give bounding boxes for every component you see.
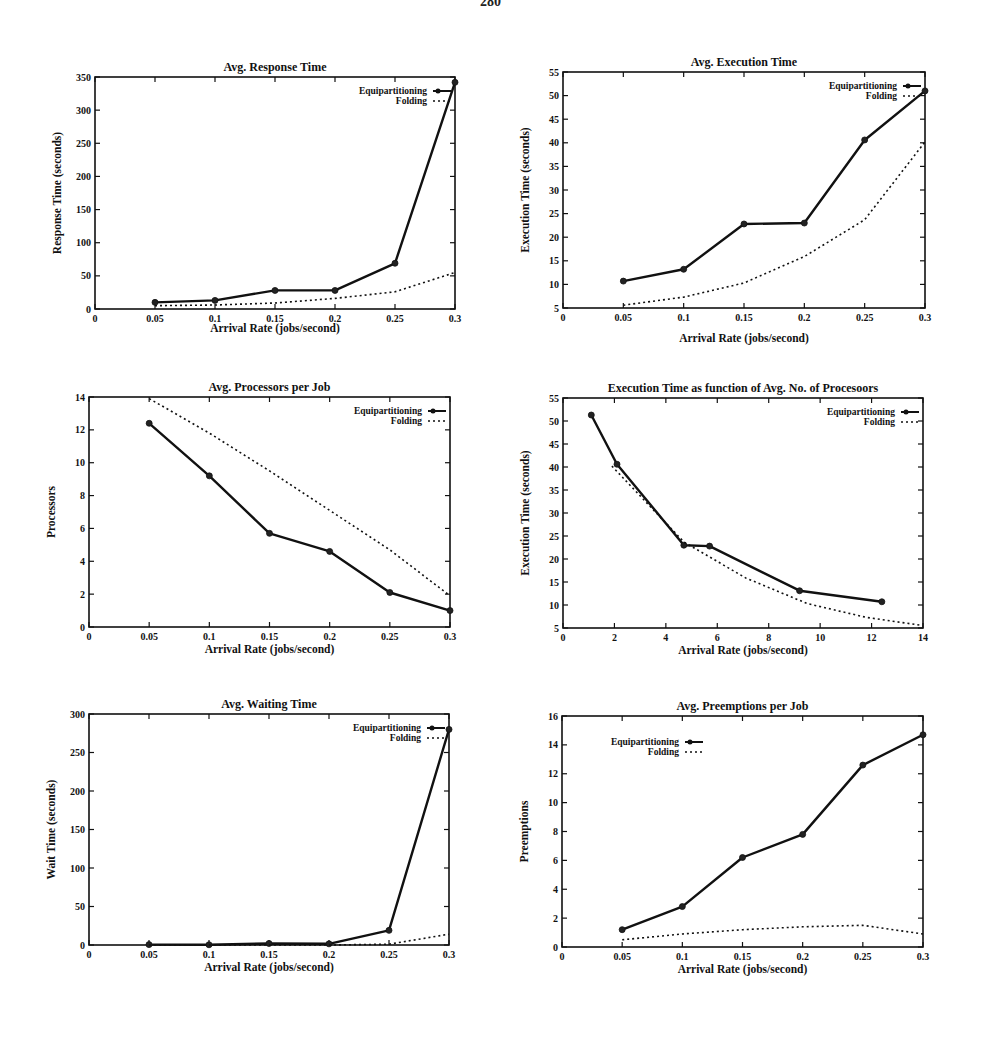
y-tick-label: 10 [549, 600, 559, 611]
data-point-marker [679, 904, 685, 910]
y-tick-label: 12 [548, 768, 558, 779]
data-point-marker [614, 461, 620, 467]
x-tick-label: 0.1 [203, 949, 216, 960]
y-tick-label: 10 [549, 279, 559, 290]
chart-title: Avg. Execution Time [691, 55, 798, 69]
x-tick-label: 12 [867, 632, 877, 643]
legend-label-folding: Folding [648, 747, 679, 757]
x-tick-label: 0.25 [381, 631, 399, 642]
y-tick-label: 350 [76, 72, 91, 83]
x-tick-label: 0.2 [798, 312, 811, 323]
y-axis-label: Preemptions [518, 800, 531, 862]
plot-frame [89, 397, 450, 627]
figure-charts: Avg. Response Time00.050.10.150.20.250.3… [0, 0, 981, 1045]
data-point-marker [206, 473, 212, 479]
y-tick-label: 4 [80, 556, 85, 567]
y-axis-label: Execution Time (seconds) [519, 127, 532, 253]
chart-title: Avg. Processors per Job [209, 380, 331, 394]
x-tick-label: 0 [87, 949, 92, 960]
y-tick-label: 15 [549, 577, 559, 588]
series-folding-line [622, 925, 923, 940]
y-tick-label: 200 [70, 786, 85, 797]
data-point-marker [862, 137, 868, 143]
y-tick-label: 30 [549, 185, 559, 196]
legend: EquipartitioningFolding [353, 723, 445, 743]
legend-label-equipartitioning: Equipartitioning [354, 406, 422, 416]
x-tick-label: 0 [93, 313, 98, 324]
series-equipartitioning-line [623, 91, 925, 281]
data-point-marker [326, 941, 332, 947]
y-tick-label: 0 [86, 304, 91, 315]
y-tick-label: 35 [549, 161, 559, 172]
legend-label-folding: Folding [864, 417, 895, 427]
chart-title: Avg. Response Time [223, 60, 327, 74]
legend-label-equipartitioning: Equipartitioning [611, 737, 679, 747]
x-tick-label: 0.25 [386, 313, 404, 324]
y-tick-label: 50 [75, 901, 85, 912]
y-tick-label: 14 [548, 739, 558, 750]
x-tick-label: 0 [561, 632, 566, 643]
legend-label-folding: Folding [390, 733, 421, 743]
y-tick-label: 5 [554, 623, 559, 634]
chart-execution-time: Avg. Execution Time00.050.10.150.20.250.… [519, 55, 931, 345]
y-tick-label: 8 [80, 490, 85, 501]
y-tick-label: 100 [70, 863, 85, 874]
y-axis-label: Wait Time (seconds) [45, 779, 58, 879]
x-tick-label: 0.3 [919, 312, 932, 323]
x-tick-label: 0.2 [323, 949, 336, 960]
y-tick-label: 14 [75, 392, 85, 403]
data-point-marker [392, 260, 398, 266]
data-point-marker [707, 543, 713, 549]
chart-exec-time-vs-processors: Execution Time as function of Avg. No. o… [519, 381, 928, 657]
x-axis-label: Arrival Rate (jobs/second) [204, 961, 334, 974]
data-point-marker [387, 590, 393, 596]
plot-frame [563, 398, 923, 628]
x-tick-label: 0.05 [613, 951, 631, 962]
y-tick-label: 55 [549, 393, 559, 404]
y-tick-label: 30 [549, 508, 559, 519]
legend-label-equipartitioning: Equipartitioning [359, 86, 427, 96]
series-equipartitioning-line [149, 423, 450, 610]
y-tick-label: 40 [549, 462, 559, 473]
y-tick-label: 4 [553, 884, 558, 895]
data-point-marker [879, 599, 885, 605]
series-equipartitioning-line [155, 82, 455, 302]
data-point-marker [447, 608, 453, 614]
data-point-marker [800, 831, 806, 837]
data-point-marker [146, 420, 152, 426]
y-tick-label: 2 [553, 913, 558, 924]
x-axis-label: Arrival Rate (jobs/second) [678, 963, 808, 976]
y-tick-label: 15 [549, 255, 559, 266]
data-point-marker [332, 287, 338, 293]
series-equipartitioning-line [149, 729, 449, 944]
legend: EquipartitioningFolding [827, 407, 919, 427]
y-tick-label: 250 [76, 138, 91, 149]
data-point-marker [920, 732, 926, 738]
x-tick-label: 0.15 [260, 949, 278, 960]
x-tick-label: 0.1 [203, 631, 216, 642]
chart-title: Avg. Preemptions per Job [677, 699, 809, 713]
data-point-marker [272, 287, 278, 293]
y-tick-label: 50 [549, 90, 559, 101]
y-tick-label: 50 [81, 270, 91, 281]
series-folding-line [149, 399, 450, 596]
y-tick-label: 200 [76, 171, 91, 182]
y-tick-label: 300 [70, 709, 85, 720]
data-point-marker [620, 278, 626, 284]
x-tick-label: 0.15 [735, 312, 753, 323]
x-tick-label: 14 [918, 632, 928, 643]
y-tick-label: 100 [76, 237, 91, 248]
y-tick-label: 40 [549, 137, 559, 148]
y-tick-label: 6 [80, 523, 85, 534]
data-point-marker [212, 297, 218, 303]
data-point-marker [267, 530, 273, 536]
y-tick-label: 5 [554, 303, 559, 314]
y-tick-label: 10 [75, 457, 85, 468]
y-tick-label: 300 [76, 105, 91, 116]
data-point-marker [801, 220, 807, 226]
plot-frame [563, 72, 925, 308]
y-tick-label: 16 [548, 711, 558, 722]
x-tick-label: 0.05 [615, 312, 633, 323]
y-tick-label: 250 [70, 747, 85, 758]
x-tick-label: 2 [612, 632, 617, 643]
